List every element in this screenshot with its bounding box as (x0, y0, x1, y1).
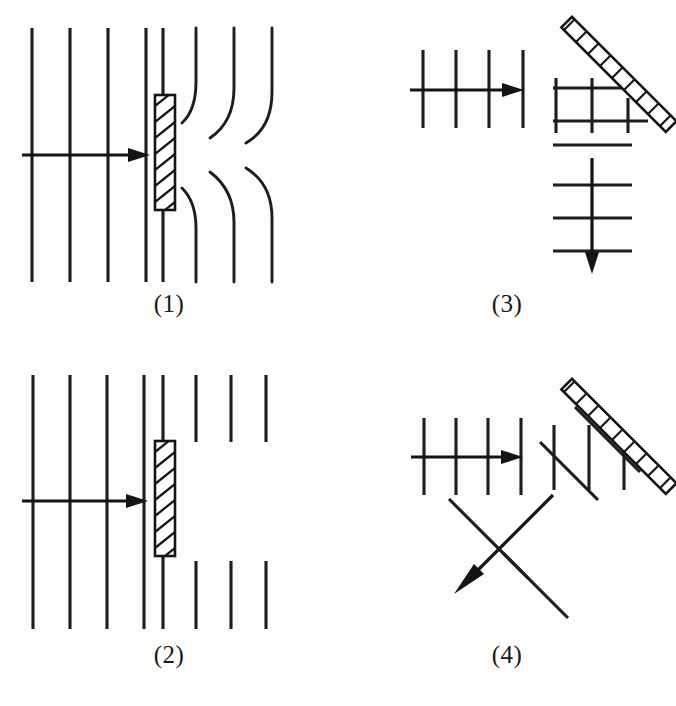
panel-3-drawing (338, 0, 676, 310)
barrier-1 (150, 86, 180, 238)
panel-3: (3) (338, 0, 676, 353)
incident-ray-arrow-1 (22, 148, 150, 162)
barrier-2 (150, 432, 180, 584)
incident-ray-arrow-3 (410, 83, 524, 97)
panel-4-caption: (4) (338, 641, 676, 669)
panel-1-drawing (0, 0, 338, 310)
panel-2: (2) (0, 353, 338, 706)
panel-1: (1) (0, 0, 338, 353)
reflected-wavefronts-4 (449, 499, 568, 618)
reflected-wavefronts-3 (553, 88, 648, 251)
diffracted-wavefronts-lower-1 (182, 168, 272, 282)
incident-ray-arrow-4 (411, 450, 523, 464)
wave-physics-figure: (1) (0, 0, 676, 706)
reflected-ray-arrow-3 (585, 158, 599, 274)
incident-wavefronts-near-mirror-3 (556, 78, 628, 133)
panel-2-caption: (2) (0, 641, 338, 669)
shadow-wavefronts-lower-2 (196, 561, 266, 629)
mirror-4 (560, 372, 676, 494)
panel-4-drawing (338, 353, 676, 653)
incident-ray-arrow-2 (22, 494, 148, 508)
panel-1-caption: (1) (0, 290, 338, 318)
diffracted-wavefronts-upper-1 (182, 28, 272, 143)
reflected-ray-arrow-4 (454, 495, 553, 594)
panel-3-caption: (3) (338, 290, 676, 318)
panel-4: (4) (338, 353, 676, 706)
shadow-wavefronts-upper-2 (196, 375, 266, 442)
panel-2-drawing (0, 353, 338, 653)
mirror-3 (560, 10, 676, 132)
